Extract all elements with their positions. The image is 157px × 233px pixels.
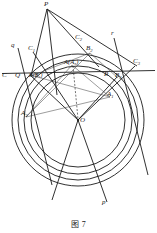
line-label-r: r: [111, 29, 114, 37]
point-label-C1: C1: [28, 45, 35, 52]
aux-chord-A2-B2: [26, 53, 90, 117]
point-label-A-A3: A(A₃): [64, 59, 79, 66]
line-P-to-B: [31, 9, 47, 76]
point-label-C1-sub: 1: [33, 48, 35, 53]
point-label-A2: A2: [21, 110, 28, 117]
point-label-A2-sub: 2: [25, 113, 27, 118]
point-label-B3: B3: [115, 72, 122, 79]
point-label-C2-base: C: [75, 33, 80, 41]
point-label-C2: C2: [75, 34, 82, 41]
line-label-p: p: [102, 198, 106, 206]
point-label-C: C: [2, 72, 7, 79]
point-label-A1-sub: 1: [111, 94, 113, 99]
line-P-to-C3: [47, 9, 137, 66]
line-p: [78, 120, 107, 202]
aux-chord-A2-A1: [26, 97, 110, 117]
figure-caption: 图 7: [0, 218, 157, 229]
point-label-P: P: [44, 1, 48, 8]
point-label-R: R: [104, 71, 108, 78]
point-label-C2-sub: 2: [80, 37, 82, 42]
point-label-B3-sub: 3: [119, 75, 121, 80]
geometry-figure: P q r p C1 C2 C3 B2 B3 A1 A2 C Q R O A(A…: [0, 0, 157, 233]
point-label-C3-base: C: [133, 57, 138, 65]
point-label-C3: C3: [133, 58, 140, 65]
point-label-C1-base: C: [28, 44, 33, 52]
point-label-B-B1: B(B₁): [29, 72, 42, 78]
line-label-q: q: [11, 41, 15, 49]
point-label-Q: Q: [15, 72, 20, 79]
radial-line-O-lower-left: [52, 120, 78, 200]
dashed-line-A-to-O: [73, 66, 78, 119]
point-label-B2-sub: 2: [90, 48, 92, 53]
center-point-dot: [77, 119, 79, 121]
point-label-O: O: [80, 117, 85, 124]
point-label-C3-sub: 3: [138, 61, 140, 66]
pencil-from-P: [31, 9, 137, 95]
point-label-B2: B2: [86, 45, 93, 52]
point-label-A1: A1: [107, 91, 114, 98]
